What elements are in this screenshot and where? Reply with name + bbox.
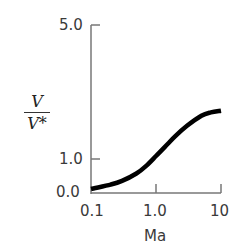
x-tick-label-1: 1.0: [143, 204, 167, 219]
x-tick-label-10: 10: [210, 204, 229, 219]
x-tick-label-0-1: 0.1: [80, 204, 104, 219]
y-tick-label-0: 0.0: [56, 185, 80, 200]
data-curve: [91, 111, 221, 189]
x-axis-label: Ma: [144, 229, 166, 244]
y-tick-label-5: 5.0: [59, 18, 83, 33]
y-tick-label-1: 1.0: [59, 152, 83, 167]
